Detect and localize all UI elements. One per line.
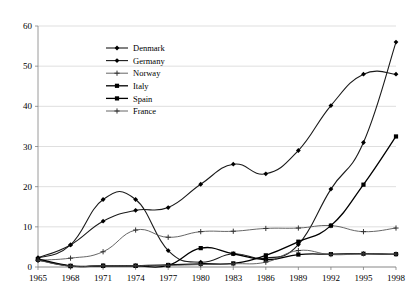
x-tick-label: 1977 xyxy=(159,273,178,283)
legend-label: Spain xyxy=(133,94,153,104)
square-marker xyxy=(296,240,300,244)
line-chart: 0102030405060 19651968197119741977198019… xyxy=(0,0,406,307)
square-marker xyxy=(329,224,333,228)
x-tick-label: 1992 xyxy=(322,273,340,283)
x-tick-label: 1974 xyxy=(127,273,146,283)
x-tick-label: 1995 xyxy=(354,273,373,283)
x-tick-label: 1986 xyxy=(257,273,276,283)
legend-label: Denmark xyxy=(133,43,165,53)
y-tick-label: 0 xyxy=(28,262,33,272)
square-marker xyxy=(115,96,119,100)
x-tick-label: 1965 xyxy=(29,273,48,283)
square-marker xyxy=(199,246,203,250)
chart-canvas: 0102030405060 19651968197119741977198019… xyxy=(0,0,406,307)
y-tick-label: 20 xyxy=(23,182,33,192)
x-tick-label: 1971 xyxy=(94,273,112,283)
legend-label: Norway xyxy=(133,68,161,78)
chart-background xyxy=(0,0,406,307)
legend-label: Germany xyxy=(133,56,165,66)
square-marker xyxy=(394,134,398,138)
x-tick-label: 1998 xyxy=(387,273,406,283)
x-tick-label: 1980 xyxy=(192,273,211,283)
x-tick-label: 1983 xyxy=(224,273,243,283)
x-tick-label: 1968 xyxy=(62,273,81,283)
legend-label: France xyxy=(133,106,156,116)
y-tick-label: 50 xyxy=(23,61,33,71)
y-tick-label: 10 xyxy=(23,222,33,232)
square-marker xyxy=(115,84,119,88)
y-tick-label: 60 xyxy=(23,21,33,31)
x-tick-label: 1989 xyxy=(289,273,308,283)
y-tick-label: 40 xyxy=(23,101,33,111)
legend-label: Italy xyxy=(133,81,149,91)
y-tick-label: 30 xyxy=(23,142,33,152)
square-marker xyxy=(264,253,268,257)
square-marker xyxy=(231,252,235,256)
square-marker xyxy=(361,183,365,187)
